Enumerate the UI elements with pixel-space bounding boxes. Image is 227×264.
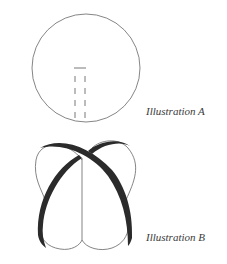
right-band	[40, 143, 132, 246]
left-band	[38, 155, 82, 248]
illustration-b-figure	[0, 0, 227, 264]
illustration-b-caption: Illustration B	[146, 231, 205, 243]
top-right-band	[88, 141, 130, 154]
